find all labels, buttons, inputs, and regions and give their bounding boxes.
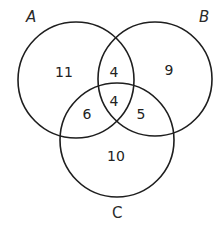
region-a-and-b: 4 [110,64,119,80]
region-values: 11 4 9 6 4 5 10 [55,62,173,164]
region-b-and-c: 5 [137,106,146,122]
set-label-a: A [25,8,36,26]
region-a-b-c: 4 [110,93,119,109]
region-b-only: 9 [165,62,174,78]
region-a-and-c: 6 [83,106,92,122]
region-a-only: 11 [55,64,73,80]
set-label-c: C [112,204,122,222]
set-label-b: B [199,8,209,26]
region-c-only: 10 [107,148,125,164]
venn-diagram: A B C 11 4 9 6 4 5 10 [0,0,218,230]
set-circles [18,22,212,197]
